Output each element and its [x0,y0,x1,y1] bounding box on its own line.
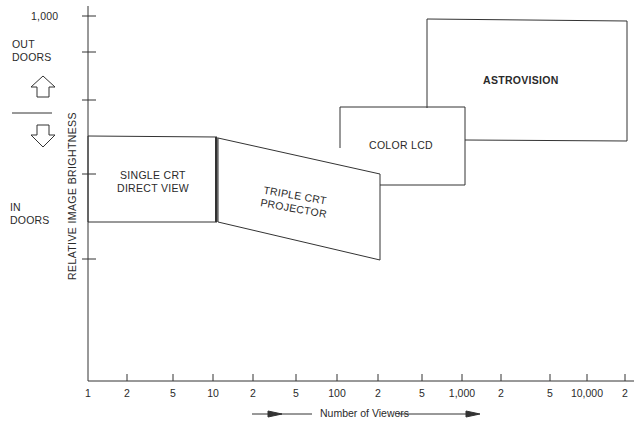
x-tick-label: 5 [293,387,299,399]
x-axis-title: Number of Viewers [320,407,409,419]
x-tick-label: 2 [250,387,256,399]
indoors-label-line1: IN [10,201,21,214]
x-tick-label: 5 [170,387,176,399]
y-tick-label-1000: 1,000 [31,10,58,23]
x-tick-label: 1,000 [449,387,475,399]
x-tick-label: 2 [375,387,381,399]
x-tick-label: 5 [419,387,425,399]
x-tick-label: 10,000 [571,387,603,399]
single-crt-label-line2: DIRECT VIEW [117,182,189,195]
y-ticks [82,16,96,259]
up-arrow-icon [31,76,55,97]
x-tick-label: 2 [498,387,504,399]
outdoors-label-line1: OUT [12,38,35,51]
x-tick-label: 100 [328,387,346,399]
x-ticks [127,374,625,381]
x-tick-label: 5 [547,387,553,399]
indoors-label-line2: DOORS [10,214,50,227]
x-tick-label: 1 [85,387,91,399]
x-tick-label: 2 [124,387,130,399]
outdoors-label-line2: DOORS [12,51,52,64]
x-tick-label: 10 [207,387,219,399]
brightness-arrows [12,76,55,147]
x-tick-label: 2 [622,387,628,399]
color-lcd-label: COLOR LCD [369,139,433,152]
astrovision-label: ASTROVISION [483,74,559,87]
single-crt-label-line1: SINGLE CRT [120,169,186,182]
y-axis-title: RELATIVE IMAGE BRIGHTNESS [66,112,78,280]
down-arrow-icon [31,125,55,147]
